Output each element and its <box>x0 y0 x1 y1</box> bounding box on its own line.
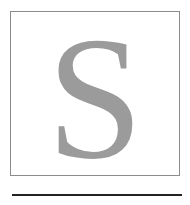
drop-cap-letter: S <box>13 16 178 176</box>
drop-cap-frame: S <box>10 11 180 176</box>
horizontal-rule <box>12 194 182 196</box>
